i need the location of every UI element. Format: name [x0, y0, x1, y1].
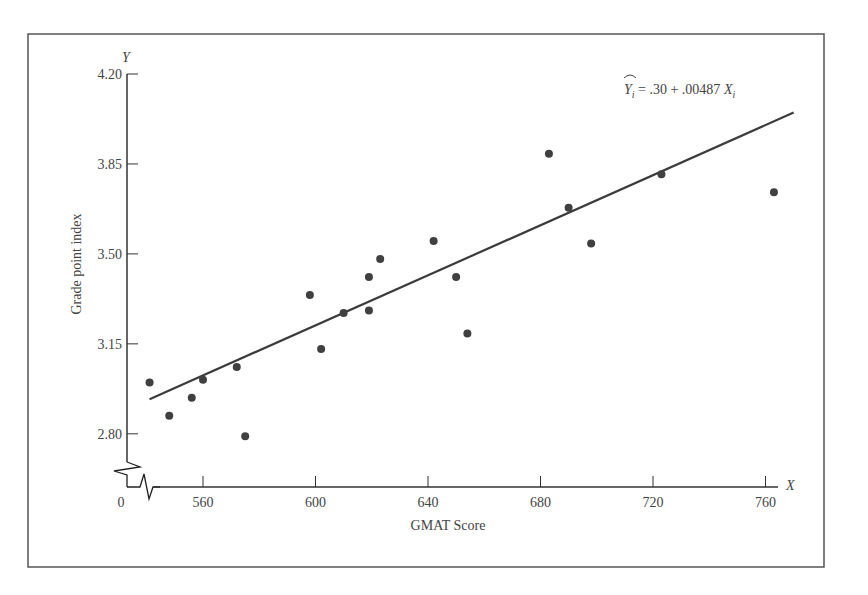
y-axis-break-icon: [114, 462, 140, 487]
x-tick-label: 720: [643, 495, 664, 510]
y-tick-label: 3.50: [98, 247, 123, 262]
eq-x-var: X: [723, 82, 733, 97]
x-axis-title: GMAT Score: [411, 518, 486, 533]
data-point: [565, 204, 573, 212]
eq-body: = .30 + .00487: [635, 82, 724, 97]
data-point: [241, 432, 249, 440]
x-tick-label: 760: [755, 495, 776, 510]
data-point: [430, 237, 438, 245]
svg-text:Yi = .30 + .00487 Xi: Yi = .30 + .00487 Xi: [624, 82, 735, 100]
y-tick-label: 2.80: [98, 427, 123, 442]
data-point: [233, 363, 241, 371]
y-axis-title: Grade point index: [69, 213, 84, 314]
y-tick-label: 4.20: [98, 67, 123, 82]
x-axis: 560600640680720760 0 X GMAT Score: [118, 476, 796, 533]
data-point: [317, 345, 325, 353]
y-tick-label: 3.85: [98, 157, 123, 172]
data-points: [146, 150, 778, 441]
data-point: [452, 273, 460, 281]
x-tick-label: 600: [305, 495, 326, 510]
data-point: [770, 188, 778, 196]
data-point: [657, 170, 665, 178]
data-point: [365, 306, 373, 314]
y-axis-letter: Y: [122, 50, 132, 65]
data-point: [340, 309, 348, 317]
data-point: [545, 150, 553, 158]
data-point: [146, 378, 154, 386]
data-point: [365, 273, 373, 281]
x-tick-label: 560: [193, 495, 214, 510]
scatter-chart: 2.803.153.503.854.20 Y Grade point index…: [0, 0, 868, 595]
x-tick-label: 680: [530, 495, 551, 510]
x-axis-letter: X: [785, 478, 795, 493]
data-point: [587, 240, 595, 248]
x-origin-label: 0: [118, 495, 125, 510]
data-point: [188, 394, 196, 402]
regression-equation: Yi = .30 + .00487 Xi: [624, 75, 735, 100]
hat-icon: [624, 75, 636, 78]
x-tick-label: 640: [418, 495, 439, 510]
regression-line: [150, 113, 794, 400]
data-point: [306, 291, 314, 299]
data-point: [199, 376, 207, 384]
data-point: [463, 330, 471, 338]
eq-x-sub: i: [732, 89, 735, 100]
y-tick-label: 3.15: [98, 337, 123, 352]
data-point: [376, 255, 384, 263]
y-axis: 2.803.153.503.854.20 Y Grade point index: [69, 50, 138, 462]
data-point: [165, 412, 173, 420]
